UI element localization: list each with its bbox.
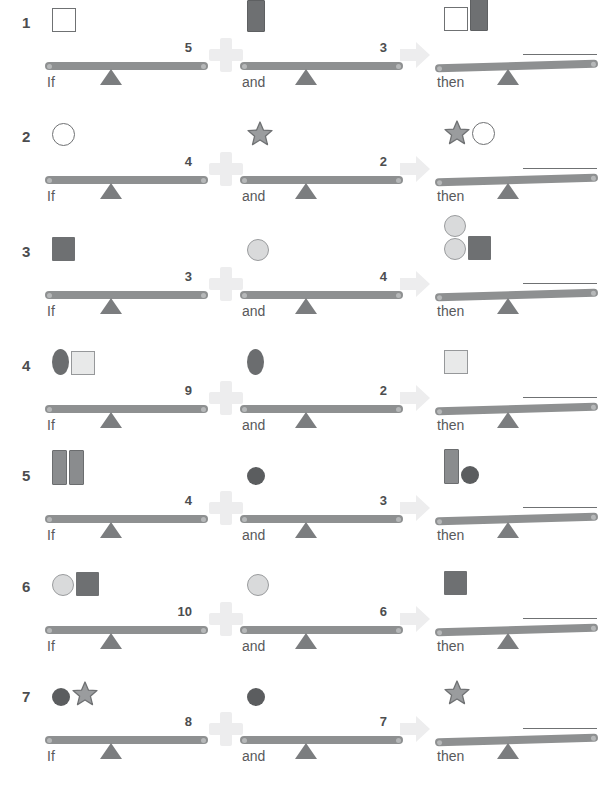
shape-tray — [444, 449, 479, 484]
shape-ellipse-dark — [52, 349, 69, 375]
weight-value: 7 — [380, 714, 387, 729]
shape-tray — [444, 350, 468, 374]
balance-fulcrum — [100, 69, 122, 85]
shape-rect-gray — [69, 450, 84, 485]
balance-beam — [45, 291, 208, 299]
row-number: 3 — [22, 243, 30, 260]
panel-caption-and: and — [242, 188, 265, 204]
shape-circle-white — [472, 122, 495, 145]
panel-caption-if: If — [47, 638, 55, 654]
shape-tray — [444, 120, 495, 145]
balance-panel-then: then — [435, 475, 600, 555]
arrow-right-icon — [400, 156, 430, 182]
arrow-right-icon — [400, 42, 430, 68]
balance-fulcrum — [100, 743, 122, 759]
panel-caption-if: If — [47, 417, 55, 433]
answer-blank-line[interactable] — [523, 728, 597, 729]
balance-beam — [45, 176, 208, 184]
puzzle-row: 2If4and2then — [0, 128, 605, 238]
weight-value: 4 — [185, 493, 192, 508]
shape-tray — [247, 239, 269, 261]
arrow-right-icon — [400, 716, 430, 742]
balance-fulcrum — [100, 522, 122, 538]
balance-panel-then: then — [435, 22, 600, 102]
balance-beam — [45, 626, 208, 634]
panel-caption-and: and — [242, 303, 265, 319]
plus-icon — [209, 267, 243, 301]
row-number: 6 — [22, 578, 30, 595]
row-number: 4 — [22, 357, 30, 374]
answer-blank-line[interactable] — [523, 283, 597, 284]
weight-value: 3 — [185, 269, 192, 284]
balance-fulcrum — [100, 183, 122, 199]
row-number: 2 — [22, 128, 30, 145]
panel-caption-then: then — [437, 748, 464, 764]
balance-panel-then: then — [435, 586, 600, 666]
shape-rect-dark — [470, 0, 488, 31]
shape-square-dark — [468, 236, 491, 260]
balance-panel-then: then — [435, 696, 600, 776]
shape-rect-gray — [52, 450, 67, 485]
answer-blank-line[interactable] — [523, 397, 597, 398]
balance-fulcrum — [497, 412, 519, 428]
shape-circle-light — [444, 215, 466, 237]
shape-circle-dark — [52, 688, 70, 706]
row-number: 5 — [22, 467, 30, 484]
balance-beam — [240, 62, 403, 70]
shape-circle-white — [52, 123, 75, 146]
shape-tray — [247, 574, 269, 596]
shape-tray — [52, 681, 98, 706]
balance-fulcrum — [295, 412, 317, 428]
panel-caption-and: and — [242, 74, 265, 90]
weight-value: 2 — [380, 154, 387, 169]
shape-circle-light — [247, 574, 269, 596]
panel-caption-if: If — [47, 527, 55, 543]
shape-ellipse-dark — [247, 349, 264, 375]
shape-stack — [444, 215, 466, 260]
shape-tray — [52, 572, 99, 596]
puzzle-row: 3If3and4then — [0, 243, 605, 353]
plus-icon — [209, 602, 243, 636]
shape-star-gray — [444, 680, 470, 705]
balance-panel-and: and7 — [240, 696, 405, 776]
panel-caption-then: then — [437, 74, 464, 90]
balance-beam — [240, 515, 403, 523]
shape-star-gray — [444, 120, 470, 145]
shape-square-dark — [76, 572, 99, 596]
shape-circle-light — [52, 574, 74, 596]
puzzle-row: 6If10and6then — [0, 578, 605, 688]
shape-square-dark — [52, 237, 75, 261]
answer-blank-line[interactable] — [523, 168, 597, 169]
row-number: 7 — [22, 688, 30, 705]
balance-fulcrum — [497, 743, 519, 759]
shape-tray — [444, 0, 488, 31]
shape-tray — [52, 349, 95, 375]
panel-caption-then: then — [437, 417, 464, 433]
shape-tray — [444, 571, 467, 595]
balance-fulcrum — [497, 298, 519, 314]
row-number: 1 — [22, 14, 30, 31]
shape-circle-dark — [247, 467, 265, 485]
panel-caption-then: then — [437, 527, 464, 543]
balance-fulcrum — [100, 412, 122, 428]
answer-blank-line[interactable] — [523, 54, 597, 55]
arrow-right-icon — [400, 385, 430, 411]
balance-panel-then: then — [435, 136, 600, 216]
shape-square-light — [444, 350, 468, 374]
balance-beam — [45, 62, 208, 70]
balance-panel-and: and3 — [240, 475, 405, 555]
shape-star-gray — [247, 121, 273, 146]
balance-panel-and: and2 — [240, 136, 405, 216]
balance-panel-then: then — [435, 251, 600, 331]
balance-fulcrum — [295, 69, 317, 85]
answer-blank-line[interactable] — [523, 618, 597, 619]
answer-blank-line[interactable] — [523, 507, 597, 508]
shape-square-white — [444, 7, 468, 31]
balance-panel-if: If4 — [45, 136, 210, 216]
weight-value: 2 — [380, 383, 387, 398]
weight-value: 6 — [380, 604, 387, 619]
balance-fulcrum — [497, 183, 519, 199]
plus-icon — [209, 491, 243, 525]
balance-panel-if: If8 — [45, 696, 210, 776]
panel-caption-and: and — [242, 527, 265, 543]
